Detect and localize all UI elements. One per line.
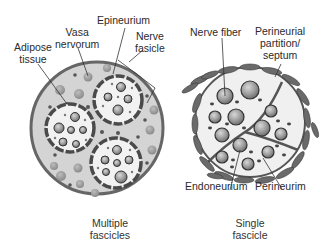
caption-line: fascicle bbox=[220, 229, 280, 241]
nerve-fascicle-2 bbox=[46, 104, 94, 152]
label-vasa-nervorum: Vasa nervorum bbox=[55, 26, 99, 50]
label-line: nervorum bbox=[55, 38, 99, 50]
label-line: Nerve bbox=[135, 30, 165, 42]
label-endoneurium: Endoneurium bbox=[185, 180, 247, 192]
label-line: tissue bbox=[14, 53, 52, 65]
caption-line: fascicles bbox=[80, 229, 140, 241]
nerve-fascicle-1 bbox=[94, 76, 142, 124]
nerve-fascicle-3 bbox=[91, 138, 141, 188]
caption-single-fascicle: Single fascicle bbox=[220, 217, 280, 241]
label-line: Perineurim bbox=[255, 180, 306, 192]
label-line: Adipose bbox=[14, 41, 52, 53]
label-line: Perineurial bbox=[255, 25, 305, 37]
label-line: partition/ bbox=[255, 37, 305, 49]
caption-multiple-fascicles: Multiple fascicles bbox=[80, 217, 140, 241]
label-line: Vasa bbox=[55, 26, 99, 38]
label-epineurium: Epineurium bbox=[97, 14, 150, 26]
caption-line: Single bbox=[220, 217, 280, 229]
label-line: Endoneurium bbox=[185, 180, 247, 192]
label-line: fasicle bbox=[135, 42, 165, 54]
caption-line: Multiple bbox=[80, 217, 140, 229]
label-line: Epineurium bbox=[97, 14, 150, 26]
label-adipose-tissue: Adipose tissue bbox=[14, 41, 52, 65]
label-line: Nerve fiber bbox=[190, 26, 241, 38]
label-perineurial-septum: Perineurial partition/ septum bbox=[255, 25, 305, 61]
label-nerve-fiber: Nerve fiber bbox=[190, 26, 241, 38]
label-perineurium: Perineurim bbox=[255, 180, 306, 192]
label-nerve-fasicle: Nerve fasicle bbox=[135, 30, 165, 54]
label-line: septum bbox=[255, 49, 305, 61]
